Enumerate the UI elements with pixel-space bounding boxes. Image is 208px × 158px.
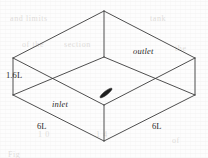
dimension-label-width-left: 6L — [37, 122, 47, 131]
tank-rim-front-right — [104, 58, 195, 105]
figure-container: and limits tank of the section the 1 0 1… — [0, 0, 208, 158]
flow-label-outlet: outlet — [133, 47, 154, 56]
tank-base-front-right — [104, 95, 195, 141]
tank-isometric-drawing — [0, 0, 208, 158]
tank-rim-back-left — [13, 11, 104, 58]
floor-obstacle — [99, 87, 113, 99]
flow-label-inlet: inlet — [52, 100, 68, 109]
dimension-label-width-right: 6L — [152, 122, 162, 131]
tank-floor-back-left — [13, 57, 104, 95]
dimension-label-height: 1.6L — [6, 71, 22, 80]
tank-floor-back-right — [104, 57, 195, 95]
tank-rim-front-left — [13, 58, 104, 105]
